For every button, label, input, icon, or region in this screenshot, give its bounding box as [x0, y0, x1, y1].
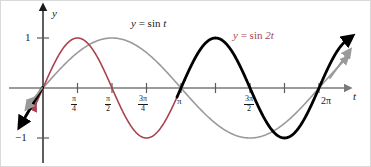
annotation-sin-2t-y: y — [233, 29, 238, 41]
x-tick-denominator: 2 — [244, 104, 254, 113]
annotation-sin-t-fn: sin — [148, 17, 161, 29]
x-tick-label-pi-over-4: π 4 — [71, 95, 77, 113]
annotation-sin-t-y: y — [131, 17, 136, 29]
t-axis-label: t — [353, 91, 356, 102]
x-tick-denominator: 2 — [105, 104, 111, 113]
x-tick-label-pi: π — [177, 97, 182, 106]
annotation-sin-t-arg: t — [163, 17, 166, 29]
y-axis-label: y — [52, 8, 57, 19]
annotation-sin-2t-fn: sin — [250, 29, 263, 41]
annotation-sin-2t-equals: = — [241, 29, 247, 41]
graph-canvas — [1, 1, 371, 167]
x-tick-label-3pi-over-4: 3π 4 — [138, 95, 148, 113]
x-tick-denominator: 4 — [138, 104, 148, 113]
x-tick-numerator: 3π — [138, 95, 148, 103]
x-tick-denominator: 4 — [71, 104, 77, 113]
x-tick-label-2pi: 2π — [321, 96, 331, 106]
x-tick-label-3pi-over-2: 3π 2 — [244, 95, 254, 113]
annotation-sin-t-equals: = — [139, 17, 145, 29]
x-tick-numerator: π — [105, 95, 111, 103]
annotation-sin-2t-arg: 2t — [265, 29, 274, 41]
annotation-sin-2t: y = sin 2t — [233, 30, 274, 41]
y-tick-label-minus-1: −1 — [15, 132, 27, 143]
x-tick-numerator: π — [71, 95, 77, 103]
annotation-sin-t: y = sin t — [131, 18, 166, 29]
y-tick-label-1: 1 — [25, 32, 31, 43]
sine-graph-figure: y t 1 −1 π 4 π 2 3π 4 π 3π 2 2π — [0, 0, 371, 167]
x-tick-numerator: 3π — [244, 95, 254, 103]
x-tick-label-pi-over-2: π 2 — [105, 95, 111, 113]
